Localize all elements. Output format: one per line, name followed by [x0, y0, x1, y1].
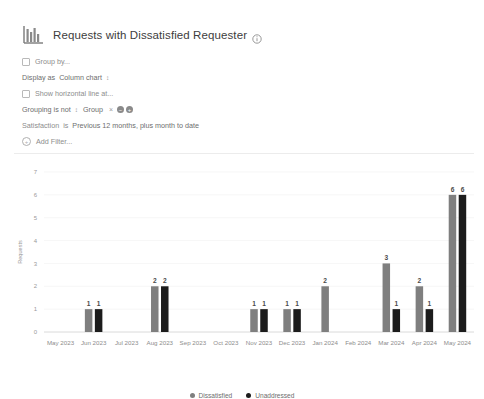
- bar[interactable]: [250, 309, 258, 332]
- divider: [14, 153, 474, 154]
- y-tick-label: 3: [34, 261, 38, 267]
- satisfaction-filter-row[interactable]: Satisfaction is Previous 12 months, plus…: [22, 119, 484, 132]
- bar[interactable]: [260, 309, 268, 332]
- group-by-label: Group by...: [35, 57, 70, 66]
- grouping-filter-row[interactable]: Grouping is not ↕ Group × − +: [22, 103, 484, 116]
- grouping-remove-icon[interactable]: ×: [109, 106, 113, 113]
- bar-value-label: 3: [384, 254, 388, 261]
- bar[interactable]: [383, 263, 391, 332]
- bar-value-label: 1: [97, 300, 101, 307]
- bar[interactable]: [293, 309, 301, 332]
- bar-value-label: 1: [295, 300, 299, 307]
- y-tick-label: 6: [34, 192, 38, 198]
- x-tick-label: Apr 2024: [412, 339, 438, 346]
- group-by-checkbox[interactable]: [22, 58, 30, 66]
- bar-value-label: 6: [461, 186, 465, 193]
- y-tick-label: 4: [34, 238, 38, 244]
- x-tick-label: Mar 2024: [378, 339, 405, 346]
- display-as-value[interactable]: Column chart: [59, 73, 102, 82]
- bar[interactable]: [85, 309, 93, 332]
- legend-item-dissatisfied[interactable]: Dissatisfied: [190, 392, 233, 399]
- legend-color-swatch: [246, 393, 251, 398]
- bar-value-label: 2: [153, 277, 157, 284]
- y-tick-label: 0: [34, 329, 38, 335]
- horizontal-line-row[interactable]: Show horizontal line at...: [22, 87, 484, 100]
- bar-value-label: 1: [285, 300, 289, 307]
- grouping-chevron-updown-icon[interactable]: ↕: [75, 106, 78, 113]
- bar[interactable]: [151, 286, 159, 332]
- grouping-minus-button[interactable]: −: [117, 106, 124, 113]
- horizontal-line-checkbox[interactable]: [22, 90, 30, 98]
- legend-color-swatch: [190, 393, 195, 398]
- bar-value-label: 2: [163, 277, 167, 284]
- x-tick-label: Jul 2023: [115, 339, 139, 346]
- widget-header: Requests with Dissatisfied Requester: [0, 0, 484, 46]
- bar-chart: 01234567RequestsMay 2023Jun 202311Jul 20…: [0, 160, 484, 372]
- bar[interactable]: [283, 309, 291, 332]
- bar-value-label: 1: [394, 300, 398, 307]
- page-title: Requests with Dissatisfied Requester: [53, 29, 247, 41]
- info-icon[interactable]: [252, 30, 261, 39]
- add-filter-label: Add Filter...: [36, 137, 72, 146]
- x-tick-label: Jun 2023: [81, 339, 107, 346]
- bar[interactable]: [393, 309, 401, 332]
- grouping-filter-value[interactable]: Group: [83, 105, 103, 114]
- x-tick-label: Aug 2023: [147, 339, 174, 346]
- x-tick-label: Nov 2023: [246, 339, 273, 346]
- bar[interactable]: [95, 309, 103, 332]
- x-tick-label: Feb 2024: [345, 339, 372, 346]
- satisfaction-filter-operator: is: [63, 121, 68, 130]
- plus-circle-icon[interactable]: +: [22, 137, 31, 146]
- x-tick-label: May 2024: [444, 339, 472, 346]
- x-tick-label: Oct 2023: [213, 339, 239, 346]
- bar[interactable]: [459, 195, 467, 332]
- bar[interactable]: [449, 195, 457, 332]
- chevron-updown-icon[interactable]: ↕: [106, 74, 109, 81]
- display-as-row[interactable]: Display as Column chart ↕: [22, 71, 484, 84]
- x-tick-label: Dec 2023: [279, 339, 306, 346]
- y-tick-label: 7: [34, 169, 38, 175]
- group-by-row[interactable]: Group by...: [22, 55, 484, 68]
- bar-value-label: 2: [418, 277, 422, 284]
- bar-value-label: 2: [323, 277, 327, 284]
- satisfaction-filter-label: Satisfaction: [22, 121, 59, 130]
- chart-area: 01234567RequestsMay 2023Jun 202311Jul 20…: [0, 160, 484, 390]
- y-tick-label: 2: [34, 283, 38, 289]
- bar[interactable]: [416, 286, 424, 332]
- grouping-filter-label: Grouping is not: [22, 105, 71, 114]
- legend-label: Unaddressed: [255, 392, 294, 399]
- bar[interactable]: [426, 309, 434, 332]
- legend-item-unaddressed[interactable]: Unaddressed: [246, 392, 294, 399]
- grouping-plus-button[interactable]: +: [126, 106, 133, 113]
- bar-value-label: 1: [87, 300, 91, 307]
- bar-value-label: 1: [262, 300, 266, 307]
- controls-panel: Group by... Display as Column chart ↕ Sh…: [0, 46, 484, 148]
- y-axis-title: Requests: [17, 240, 23, 264]
- bar[interactable]: [321, 286, 329, 332]
- x-tick-label: Jan 2024: [312, 339, 338, 346]
- y-tick-label: 5: [34, 215, 38, 221]
- bar-value-label: 1: [252, 300, 256, 307]
- bar-chart-icon: [22, 24, 44, 46]
- bar-value-label: 6: [451, 186, 455, 193]
- bar[interactable]: [161, 286, 169, 332]
- display-as-label: Display as: [22, 73, 55, 82]
- add-filter-row[interactable]: + Add Filter...: [22, 135, 484, 148]
- x-tick-label: May 2023: [47, 339, 75, 346]
- x-tick-label: Sep 2023: [180, 339, 207, 346]
- y-tick-label: 1: [34, 306, 38, 312]
- legend-label: Dissatisfied: [199, 392, 233, 399]
- horizontal-line-label: Show horizontal line at...: [35, 89, 113, 98]
- chart-legend: Dissatisfied Unaddressed: [0, 392, 484, 399]
- satisfaction-filter-value[interactable]: Previous 12 months, plus month to date: [72, 121, 199, 130]
- bar-value-label: 1: [428, 300, 432, 307]
